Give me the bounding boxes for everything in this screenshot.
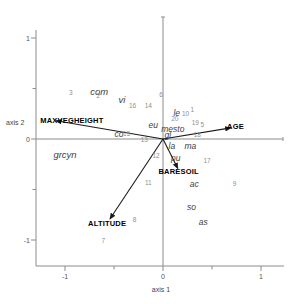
site-number-14: 14: [145, 102, 152, 109]
y-tick-label: 1: [26, 35, 30, 42]
site-number-19: 19: [192, 120, 199, 127]
site-number-2: 2: [97, 92, 101, 99]
site-number-10: 10: [182, 111, 189, 118]
species-label-as: as: [199, 218, 208, 227]
species-label-eu: eu: [148, 121, 157, 130]
species-label-grcyn: grcyn: [53, 150, 76, 160]
site-number-16: 16: [129, 102, 136, 109]
species-label-ma: ma: [185, 142, 197, 151]
site-number-15: 15: [123, 131, 130, 138]
species-label-vi: vi: [118, 95, 125, 105]
species-label-so: so: [187, 202, 196, 211]
site-number-7: 7: [101, 238, 105, 245]
x-axis-title: axis 1: [152, 286, 170, 293]
y-tick-label: 0: [26, 136, 30, 143]
x-tick-label: 1: [259, 273, 263, 280]
site-number-11: 11: [145, 180, 152, 187]
site-number-5: 5: [200, 122, 204, 129]
species-label-la: la: [169, 142, 176, 151]
species-label-pu: pu: [171, 154, 180, 163]
site-number-9: 9: [233, 181, 237, 188]
y-tick-label: -1: [24, 237, 30, 244]
plot-labels-layer: -1-10011MAXVEGHEIGHTAGEALTITUDEBARESOILc…: [0, 0, 296, 304]
env-label-altitude: ALTITUDE: [88, 220, 126, 228]
site-number-6: 6: [159, 91, 163, 98]
site-number-13: 13: [141, 137, 148, 144]
env-label-maxvegheight: MAXVEGHEIGHT: [40, 117, 103, 125]
env-label-age: AGE: [227, 123, 244, 131]
y-axis-title: axis 2: [6, 119, 24, 126]
site-number-1: 1: [191, 106, 195, 113]
site-number-3: 3: [69, 89, 73, 96]
site-number-20: 20: [171, 116, 178, 123]
species-label-gl: gl: [165, 131, 172, 140]
ordination-biplot-figure: -1-10011MAXVEGHEIGHTAGEALTITUDEBARESOILc…: [0, 0, 296, 304]
site-number-18: 18: [194, 132, 201, 139]
env-label-baresoil: BARESOIL: [158, 169, 198, 177]
site-number-17: 17: [203, 158, 210, 165]
site-number-12: 12: [153, 153, 160, 160]
site-number-8: 8: [133, 217, 137, 224]
species-label-ac: ac: [190, 180, 199, 189]
species-label-co: co: [114, 130, 123, 139]
x-tick-label: -1: [62, 273, 68, 280]
x-tick-label: 0: [161, 273, 165, 280]
